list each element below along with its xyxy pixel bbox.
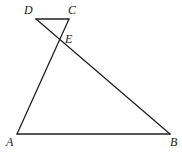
- label-e: E: [64, 32, 73, 46]
- label-a: A: [5, 135, 14, 149]
- label-c: C: [68, 3, 77, 17]
- label-b: B: [170, 135, 178, 149]
- label-d: D: [23, 3, 33, 17]
- segment-db: [36, 19, 170, 134]
- segment-ca: [17, 19, 69, 134]
- geometry-diagram: D C E A B: [0, 0, 182, 153]
